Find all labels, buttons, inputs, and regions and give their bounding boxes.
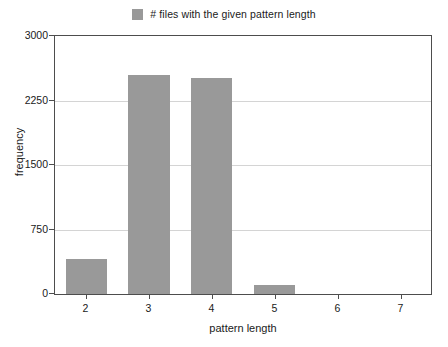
x-tick-mark — [86, 295, 87, 299]
bars-layer — [55, 36, 431, 294]
x-tick: 2 — [54, 295, 117, 314]
x-tick-mark — [212, 295, 213, 299]
y-tick-label: 0 — [0, 287, 48, 299]
y-axis-title: frequency — [13, 92, 25, 212]
bar[interactable] — [66, 259, 107, 294]
legend-entry: # files with the given pattern length — [132, 8, 315, 20]
x-tick-label: 6 — [306, 302, 369, 314]
bar-slot — [118, 36, 181, 294]
x-tick-mark — [275, 295, 276, 299]
bar-slot — [55, 36, 118, 294]
x-tick: 5 — [243, 295, 306, 314]
x-axis-title: pattern length — [54, 322, 432, 334]
x-tick: 7 — [369, 295, 432, 314]
bar-slot — [180, 36, 243, 294]
x-tick-label: 2 — [54, 302, 117, 314]
bar[interactable] — [191, 78, 232, 294]
legend-swatch-icon — [132, 9, 143, 20]
x-tick-mark — [149, 295, 150, 299]
x-tick: 4 — [180, 295, 243, 314]
x-tick: 6 — [306, 295, 369, 314]
x-tick-label: 3 — [117, 302, 180, 314]
plot-inner — [55, 36, 431, 294]
x-tick: 3 — [117, 295, 180, 314]
legend-label: # files with the given pattern length — [150, 8, 315, 20]
bar-slot — [243, 36, 306, 294]
y-tick-label: 750 — [0, 223, 48, 235]
x-tick-mark — [338, 295, 339, 299]
chart-legend: # files with the given pattern length — [0, 8, 448, 20]
bar-slot — [368, 36, 431, 294]
bar[interactable] — [254, 285, 295, 294]
x-axis-ticks: 2 3 4 5 6 7 — [54, 295, 432, 314]
bar-chart: # files with the given pattern length 30… — [0, 0, 448, 347]
x-tick-mark — [401, 295, 402, 299]
plot-area — [54, 35, 432, 295]
x-tick-label: 7 — [369, 302, 432, 314]
bar-slot — [306, 36, 369, 294]
y-tick-label: 3000 — [0, 29, 48, 41]
x-tick-label: 4 — [180, 302, 243, 314]
x-tick-label: 5 — [243, 302, 306, 314]
bar[interactable] — [128, 75, 169, 294]
